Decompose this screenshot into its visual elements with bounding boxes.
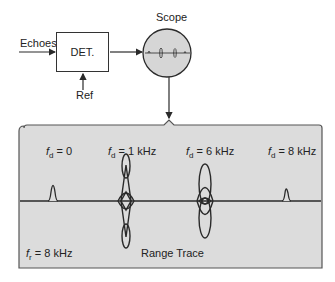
detector-block: DET.: [56, 32, 109, 72]
range-trace-title: Range Trace: [141, 248, 204, 259]
prf-label: fr = 8 kHz: [26, 248, 72, 259]
scope-label: Scope: [156, 12, 187, 23]
target-label-fd-1khz: fd = 1 kHz: [108, 146, 156, 157]
ref-label: Ref: [76, 90, 93, 101]
target-label-fd-0: fd = 0: [46, 146, 72, 157]
echoes-label: Echoes: [20, 38, 57, 49]
target-label-fd-8khz: fd = 8 kHz: [268, 146, 316, 157]
target-label-fd-6khz: fd = 6 kHz: [186, 146, 234, 157]
range-trace-panel: [19, 120, 322, 268]
detector-label: DET.: [71, 46, 95, 58]
